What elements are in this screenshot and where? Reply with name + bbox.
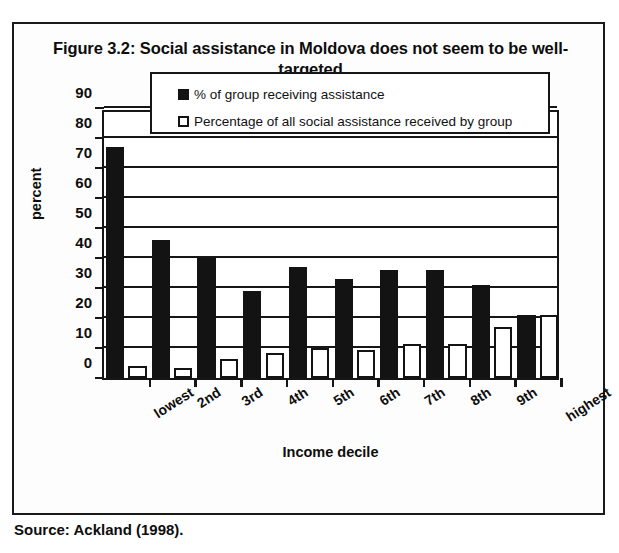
chart-legend: % of group receiving assistance Percenta… (150, 72, 550, 134)
bar-group (241, 112, 287, 378)
x-axis-tick-label: 8th (467, 384, 493, 409)
x-axis-tick-label: 2nd (194, 384, 224, 411)
bar-share-of-assistance (494, 327, 512, 378)
bar-group (470, 112, 516, 378)
y-axis-tick-label: 70 (75, 144, 92, 161)
y-axis-tick (95, 137, 104, 140)
bar-receiving-assistance (106, 147, 124, 378)
x-axis-tick-label: 6th (376, 384, 402, 409)
y-axis-tick-label: 90 (75, 84, 92, 101)
y-axis-tick (95, 107, 104, 110)
bars-layer (104, 112, 557, 378)
y-axis-tick (95, 257, 104, 260)
bar-group (378, 112, 424, 378)
figure-frame: Figure 3.2: Social assistance in Moldova… (12, 22, 605, 515)
x-axis-tick-label: 7th (422, 384, 448, 409)
bar-group (150, 112, 196, 378)
y-axis-tick (95, 167, 104, 170)
y-axis-tick (95, 227, 104, 230)
legend-item-series-1: % of group receiving assistance (178, 83, 548, 105)
bar-share-of-assistance (357, 350, 375, 379)
legend-label-series-1: % of group receiving assistance (194, 87, 385, 102)
source-note: Source: Ackland (1998). (14, 521, 184, 538)
bar-share-of-assistance (220, 359, 238, 379)
bar-share-of-assistance (403, 344, 421, 379)
bar-receiving-assistance (197, 258, 215, 378)
bar-share-of-assistance (174, 368, 192, 379)
legend-item-series-2: Percentage of all social assistance rece… (178, 110, 548, 132)
bar-receiving-assistance (472, 285, 490, 378)
bar-share-of-assistance (448, 344, 466, 379)
y-axis-tick-label: 50 (75, 204, 92, 221)
x-axis-tick-label: lowest (151, 384, 196, 421)
bar-group (104, 112, 150, 378)
y-axis-tick-label: 20 (75, 294, 92, 311)
y-axis-tick-label: 10 (75, 324, 92, 341)
legend-swatch-outlined-icon (178, 116, 189, 127)
bar-receiving-assistance (517, 315, 535, 378)
y-axis-tick (95, 377, 104, 380)
y-axis-tick-label: 60 (75, 174, 92, 191)
x-axis-tick-label: 4th (285, 384, 311, 409)
bar-receiving-assistance (243, 291, 261, 378)
x-axis-title: Income decile (102, 444, 559, 460)
x-axis-tick-label: 5th (330, 384, 356, 409)
bar-receiving-assistance (289, 267, 307, 378)
legend-label-series-2: Percentage of all social assistance rece… (194, 114, 512, 129)
legend-swatch-filled-icon (178, 89, 189, 100)
y-axis-tick (95, 287, 104, 290)
bar-group (424, 112, 470, 378)
bar-group (515, 112, 561, 378)
y-axis-tick-label: 0 (84, 354, 92, 371)
chart-plot-wrapper: percent 0102030405060708090 lowest2nd3rd… (14, 24, 607, 517)
bar-share-of-assistance (266, 353, 284, 379)
bar-share-of-assistance (540, 315, 558, 378)
bar-share-of-assistance (311, 348, 329, 378)
bar-receiving-assistance (426, 270, 444, 378)
y-axis-tick (95, 197, 104, 200)
x-axis-tick (560, 378, 563, 387)
y-axis-title: percent (28, 168, 44, 220)
y-axis-tick-label: 80 (75, 114, 92, 131)
y-axis-tick (95, 347, 104, 350)
y-axis-tick-label: 40 (75, 234, 92, 251)
bar-share-of-assistance (128, 366, 146, 378)
x-axis-tick-label: 9th (513, 384, 539, 409)
bar-group (287, 112, 333, 378)
bar-receiving-assistance (335, 279, 353, 378)
x-axis-tick-label: highest (563, 384, 613, 425)
bar-receiving-assistance (380, 270, 398, 378)
bar-group (333, 112, 379, 378)
y-axis-tick-label: 30 (75, 264, 92, 281)
bar-group (195, 112, 241, 378)
bar-receiving-assistance (152, 240, 170, 378)
x-axis-tick-label: 3rd (239, 384, 266, 409)
plot-area: 0102030405060708090 (102, 110, 559, 380)
y-axis-tick (95, 317, 104, 320)
